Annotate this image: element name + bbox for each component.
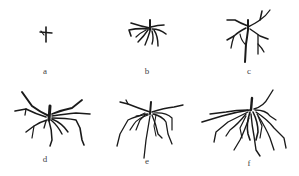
panel-c: c (200, 0, 299, 88)
root-drawing-a (0, 0, 99, 88)
root-drawing-e (100, 88, 199, 176)
panel-label-f: f (248, 158, 251, 168)
panel-label-a: a (43, 66, 47, 76)
root-drawing-d (0, 88, 99, 176)
panel-label-b: b (145, 66, 150, 76)
panel-b: b (100, 0, 199, 88)
panel-label-d: d (43, 154, 48, 164)
panel-label-e: e (145, 156, 149, 166)
panel-label-c: c (247, 66, 251, 76)
panel-f: f (200, 88, 299, 176)
panel-a: a (0, 0, 99, 88)
panel-d: d (0, 88, 99, 176)
panel-e: e (100, 88, 199, 176)
